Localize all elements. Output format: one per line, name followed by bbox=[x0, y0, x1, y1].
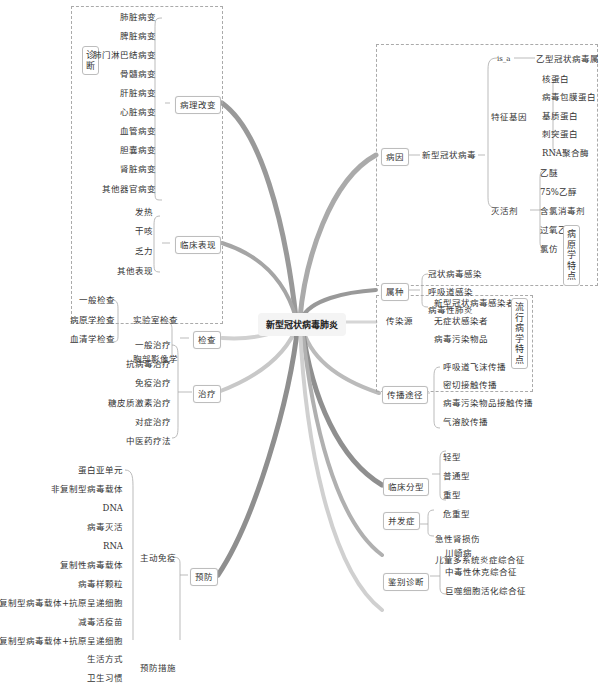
gene-item: 基质蛋白 bbox=[542, 111, 578, 121]
active-immunity-item: 非复制型病毒载体 bbox=[51, 484, 123, 494]
node-clinical[interactable]: 临床表现 bbox=[175, 236, 221, 254]
node-pathology[interactable]: 病理改变 bbox=[175, 96, 221, 114]
complication-item: 急性肾损伤 bbox=[435, 534, 480, 544]
genus-item: 冠状病毒感染 bbox=[428, 269, 482, 279]
exam-lab-node[interactable]: 实验室检查 bbox=[133, 315, 178, 325]
treatment-item: 对症治疗 bbox=[135, 417, 171, 427]
genes-node[interactable]: 特征基因 bbox=[491, 112, 527, 122]
prevention-measures-item: 生活方式 bbox=[87, 654, 123, 664]
pathology-item: 血管病变 bbox=[120, 126, 156, 136]
gene-item: 病毒包膜蛋白 bbox=[542, 92, 596, 102]
treatment-item: 一般治疗 bbox=[135, 340, 171, 350]
source-item: 新型冠状病毒感染者 bbox=[434, 298, 515, 308]
inactivator-item: 含氯消毒剂 bbox=[540, 206, 585, 216]
is-a-label: is_a bbox=[497, 54, 511, 64]
gene-item: RNA聚合酶 bbox=[542, 148, 589, 158]
node-complications[interactable]: 并发症 bbox=[383, 512, 420, 530]
gene-item: 核蛋白 bbox=[542, 74, 569, 84]
source-item: 无症状感染者 bbox=[434, 316, 488, 326]
pathology-item: 肝脏病变 bbox=[120, 88, 156, 98]
pathology-item: 其他器官病变 bbox=[102, 184, 156, 194]
active-immunity-item: DNA bbox=[103, 503, 123, 513]
node-cause[interactable]: 病因 bbox=[381, 148, 409, 166]
virus-node[interactable]: 新型冠状病毒 bbox=[422, 150, 476, 160]
active-immunity-item: 病毒灭活 bbox=[87, 522, 123, 532]
center-node[interactable]: 新型冠状病毒肺炎 bbox=[258, 313, 346, 336]
active-immunity-item: 减毒活疫苗 bbox=[78, 617, 123, 627]
pathology-item: 骨髓病变 bbox=[120, 69, 156, 79]
type-item: 危重型 bbox=[443, 509, 470, 519]
node-clinical-types[interactable]: 临床分型 bbox=[383, 478, 429, 496]
pathology-item: 肺门淋巴结病变 bbox=[93, 50, 156, 60]
exam-lab-item: 一般检查 bbox=[79, 295, 115, 305]
exam-lab-item: 血清学检查 bbox=[70, 334, 115, 344]
treatment-item: 免疫治疗 bbox=[135, 378, 171, 388]
treatment-item: 糖皮质激素治疗 bbox=[108, 398, 171, 408]
gene-item: 刺突蛋白 bbox=[542, 129, 578, 139]
node-treatment[interactable]: 治疗 bbox=[193, 385, 221, 403]
clinical-item: 发热 bbox=[135, 207, 153, 217]
prevention-measures-item: 卫生习惯 bbox=[87, 673, 123, 683]
pathology-item: 肾脏病变 bbox=[120, 164, 156, 174]
pathogen-region-label: 病原学特点 bbox=[563, 225, 580, 286]
route-item: 密切接触传播 bbox=[443, 380, 497, 390]
inactivator-item: 乙醚 bbox=[540, 168, 558, 178]
exam-lab-item: 病原学检查 bbox=[70, 315, 115, 325]
differential-item: 巨噬细胞活化综合征 bbox=[445, 586, 526, 596]
clinical-item: 干咳 bbox=[135, 226, 153, 236]
route-item: 呼吸道飞沫传播 bbox=[443, 362, 506, 372]
differential-item: 川崎病 bbox=[445, 548, 472, 558]
pathology-item: 肺脏病变 bbox=[120, 12, 156, 22]
treatment-item: 抗病毒治疗 bbox=[126, 359, 171, 369]
inactivator-item: 氯仿 bbox=[540, 244, 558, 254]
inactivator-node[interactable]: 灭活剂 bbox=[491, 206, 518, 216]
active-immunity-item: 蛋白亚单元 bbox=[78, 465, 123, 475]
active-immunity-node[interactable]: 主动免疫 bbox=[140, 553, 176, 563]
active-immunity-item: 非复制型病毒载体+抗原呈递细胞 bbox=[0, 636, 123, 646]
node-differential[interactable]: 鉴别诊断 bbox=[383, 573, 429, 591]
pathology-item: 心脏病变 bbox=[120, 107, 156, 117]
pathology-item: 胆囊病变 bbox=[120, 145, 156, 155]
active-immunity-item: RNA bbox=[103, 541, 123, 551]
node-exam[interactable]: 检查 bbox=[193, 331, 221, 349]
prevention-measures-node[interactable]: 预防措施 bbox=[140, 663, 176, 673]
epidemiology-region-label: 流行病学特点 bbox=[511, 298, 528, 369]
node-prevention[interactable]: 预防 bbox=[190, 568, 218, 586]
is-a-value: 乙型冠状病毒属 bbox=[536, 54, 599, 64]
differential-item: 中毒性休克综合征 bbox=[445, 567, 517, 577]
route-item: 病毒污染物品接触传播 bbox=[443, 398, 533, 408]
active-immunity-item: 病毒样颗粒 bbox=[78, 579, 123, 589]
active-immunity-item: 复制性病毒载体 bbox=[60, 560, 123, 570]
inactivator-item: 75%乙醇 bbox=[540, 187, 577, 197]
treatment-item: 中医药疗法 bbox=[126, 436, 171, 446]
node-source[interactable]: 传染源 bbox=[386, 316, 413, 326]
node-route[interactable]: 传播途径 bbox=[382, 386, 428, 404]
pathology-item: 脾脏病变 bbox=[120, 31, 156, 41]
type-item: 重型 bbox=[443, 490, 461, 500]
route-item: 气溶胶传播 bbox=[443, 417, 488, 427]
node-genus[interactable]: 属种 bbox=[381, 283, 409, 301]
clinical-item: 乏力 bbox=[135, 246, 153, 256]
source-item: 病毒污染物品 bbox=[434, 334, 488, 344]
active-immunity-item: 复制型病毒载体+抗原呈递细胞 bbox=[0, 598, 123, 608]
genus-item: 呼吸道感染 bbox=[428, 287, 473, 297]
type-item: 轻型 bbox=[443, 452, 461, 462]
type-item: 普通型 bbox=[443, 471, 470, 481]
clinical-item: 其他表现 bbox=[117, 266, 153, 276]
